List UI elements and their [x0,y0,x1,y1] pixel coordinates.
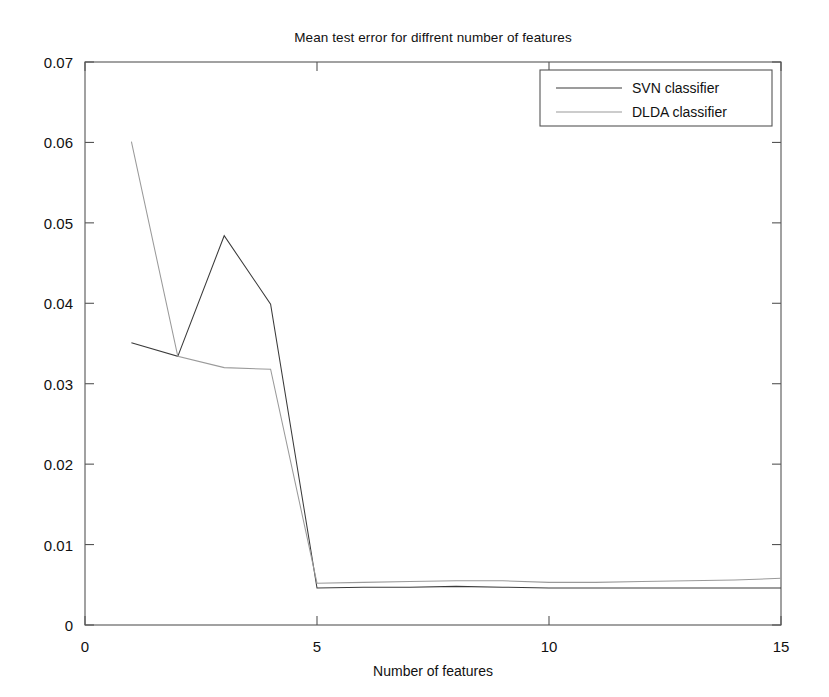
legend-label-1: SVN classifier [632,80,719,96]
axes-frame [85,62,781,625]
legend-label-2: DLDA classifier [632,104,727,120]
chart-legend[interactable]: SVN classifierDLDA classifier [540,70,772,126]
y-tick-label: 0.07 [44,54,73,71]
chart-plot-area: 00.010.020.030.040.050.060.07 051015 Num… [0,0,829,697]
x-tick-label: 15 [773,638,790,655]
y-tick-label: 0 [65,617,73,634]
x-axis-tick-labels: 051015 [81,638,790,655]
y-tick-label: 0.01 [44,537,73,554]
y-tick-label: 0.02 [44,456,73,473]
data-series-group [131,142,781,588]
y-tick-label: 0.03 [44,376,73,393]
y-tick-label: 0.05 [44,215,73,232]
x-tick-label: 5 [313,638,321,655]
x-axis-label: Number of features [373,663,493,679]
y-tick-label: 0.06 [44,134,73,151]
figure-canvas: Mean test error for diffrent number of f… [0,0,829,697]
x-tick-label: 0 [81,638,89,655]
y-tick-label: 0.04 [44,295,73,312]
axis-ticks [85,62,781,625]
x-tick-label: 10 [541,638,558,655]
series-line-1 [131,236,781,588]
y-axis-tick-labels: 00.010.020.030.040.050.060.07 [44,54,73,634]
series-line-2 [131,142,781,584]
plot-frame [85,62,781,625]
